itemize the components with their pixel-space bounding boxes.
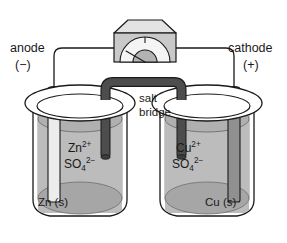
salt-bridge-left-tip — [101, 155, 110, 159]
copper-sulfate-anion-label: SO42− — [172, 156, 203, 173]
salt-bridge-label-line2: bridge — [139, 106, 171, 120]
copper-cation-charge: 2+ — [191, 140, 200, 149]
right-anion-subscript: 4 — [189, 164, 194, 173]
voltmeter — [114, 20, 176, 62]
copper-cation-element: Cu — [176, 141, 191, 155]
voltmeter-top-face — [114, 20, 176, 33]
anode-sign-label: (−) — [15, 58, 31, 73]
zinc-solid-label: Zn (s) — [38, 196, 68, 208]
salt-bridge-label: salt bridge — [139, 92, 171, 119]
salt-bridge-label-line1: salt — [139, 92, 171, 106]
zinc-sulfate-anion-label: SO42− — [64, 156, 95, 173]
right-anion-charge: 2− — [194, 156, 203, 165]
copper-solid-label: Cu (s) — [205, 196, 236, 208]
right-anion-formula: SO — [172, 157, 189, 171]
left-anion-charge: 2− — [86, 156, 95, 165]
left-anion-subscript: 4 — [81, 164, 86, 173]
left-anion-formula: SO — [64, 157, 81, 171]
copper-cation-label: Cu2+ — [176, 140, 201, 155]
zinc-cation-element: Zn — [68, 141, 82, 155]
galvanic-cell-diagram: anode (−) cathode (+) salt bridge Zn2+ S… — [0, 0, 287, 243]
zinc-cation-charge: 2+ — [82, 140, 91, 149]
zinc-cation-label: Zn2+ — [68, 140, 91, 155]
cathode-label: cathode — [228, 41, 272, 56]
cathode-sign-label: (+) — [243, 58, 259, 73]
anode-label: anode — [10, 41, 45, 56]
